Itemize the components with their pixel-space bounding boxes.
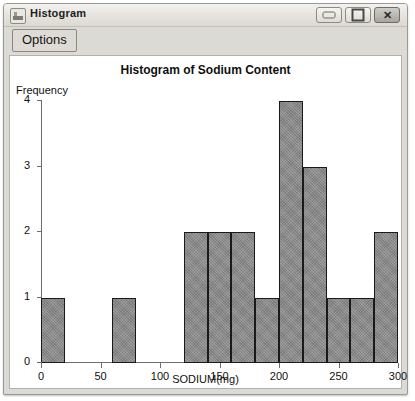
minimize-button[interactable] — [316, 7, 342, 23]
x-axis-tick-label: 0 — [38, 370, 44, 382]
title-bar[interactable]: Histogram ✕ — [4, 4, 407, 27]
y-axis-tick: 4 — [37, 100, 42, 101]
histogram-bar — [208, 232, 232, 363]
x-axis-tick-label: 250 — [329, 370, 347, 382]
histogram-bar — [374, 232, 398, 363]
y-axis-tick-label: 3 — [24, 159, 30, 171]
maximize-button[interactable] — [345, 7, 371, 23]
histogram-bar — [112, 298, 136, 364]
histogram-chart: Histogram of Sodium Content Frequency SO… — [9, 55, 402, 389]
histogram-window: Histogram ✕ Options Histogram of Sodium … — [3, 3, 408, 395]
x-axis-tick-label: 50 — [94, 370, 106, 382]
x-axis-tick: 0 — [41, 363, 42, 368]
x-axis-tick-label: 100 — [151, 370, 169, 382]
x-axis-tick: 250 — [339, 363, 340, 368]
histogram-bar — [184, 232, 208, 363]
histogram-bar — [327, 298, 351, 364]
y-axis-tick: 1 — [37, 297, 42, 298]
histogram-bar — [41, 298, 65, 364]
y-axis-tick-label: 1 — [24, 290, 30, 302]
chart-title: Histogram of Sodium Content — [10, 63, 401, 77]
histogram-bar — [231, 232, 255, 363]
maximize-icon — [352, 9, 365, 22]
close-button[interactable]: ✕ — [374, 7, 400, 23]
x-axis-tick: 100 — [160, 363, 161, 368]
options-button[interactable]: Options — [12, 29, 77, 52]
minimize-icon — [323, 12, 336, 19]
histogram-bar — [303, 167, 327, 364]
toolbar: Options — [4, 27, 407, 55]
x-axis-tick-label: 150 — [210, 370, 228, 382]
y-axis-tick-label: 0 — [24, 355, 30, 367]
x-axis-tick-label: 200 — [270, 370, 288, 382]
x-axis-tick-label: 300 — [389, 370, 407, 382]
y-axis-tick: 3 — [37, 166, 42, 167]
histogram-bar — [350, 298, 374, 364]
close-icon: ✕ — [383, 10, 392, 21]
x-axis-tick: 50 — [101, 363, 102, 368]
y-axis-tick: 2 — [37, 231, 42, 232]
histogram-bar — [255, 298, 279, 364]
histogram-bar — [279, 101, 303, 363]
window-title: Histogram — [30, 7, 86, 19]
x-axis-tick: 300 — [398, 363, 399, 368]
x-axis-tick: 150 — [220, 363, 221, 368]
histogram-window-icon — [10, 8, 26, 24]
plot-area: 01234 050100150200250300 — [41, 101, 398, 363]
y-axis-tick-label: 2 — [24, 224, 30, 236]
y-axis-tick-label: 4 — [24, 93, 30, 105]
x-axis-tick: 200 — [279, 363, 280, 368]
